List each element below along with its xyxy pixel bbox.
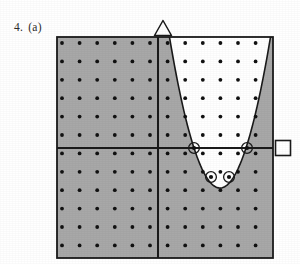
lattice-dot (60, 244, 64, 248)
lattice-dot (78, 78, 82, 82)
lattice-dot (131, 133, 135, 137)
lattice-dot (60, 170, 64, 174)
lattice-dot (183, 152, 187, 156)
lattice-dot (166, 96, 170, 100)
lattice-dot (254, 188, 258, 192)
lattice-dot (148, 41, 152, 45)
lattice-dot (219, 244, 223, 248)
lattice-dot (236, 41, 240, 45)
lattice-dot (219, 225, 223, 229)
lattice-dot (183, 41, 187, 45)
lattice-dot (254, 225, 258, 229)
lattice-dot (78, 41, 82, 45)
lattice-dot (60, 41, 64, 45)
figure-container: 4.(a) (0, 0, 300, 264)
lattice-dot (201, 170, 205, 174)
lattice-dot (131, 188, 135, 192)
lattice-dot (95, 96, 99, 100)
lattice-dot (95, 244, 99, 248)
lattice-dot (148, 170, 152, 174)
lattice-dot (219, 41, 223, 45)
lattice-dot (148, 96, 152, 100)
lattice-dot (148, 60, 152, 64)
lattice-dot (95, 188, 99, 192)
lattice-dot (60, 115, 64, 119)
lattice-dot (148, 133, 152, 137)
lattice-dot (236, 78, 240, 82)
plot-svg (0, 0, 300, 264)
lattice-dot (60, 152, 64, 156)
lattice-dot (201, 152, 205, 156)
lattice-dot (60, 96, 64, 100)
lattice-dot (166, 152, 170, 156)
lattice-dot (148, 152, 152, 156)
lattice-dot (236, 244, 240, 248)
lattice-dot (219, 152, 223, 156)
lattice-dot (113, 244, 117, 248)
lattice-dot (113, 188, 117, 192)
lattice-dot (95, 78, 99, 82)
lattice-dot (148, 244, 152, 248)
lattice-dot (201, 41, 205, 45)
marked-point (245, 146, 249, 150)
lattice-dot (60, 78, 64, 82)
lattice-dot (113, 207, 117, 211)
lattice-dot (236, 152, 240, 156)
lattice-dot (131, 96, 135, 100)
lattice-dot (166, 170, 170, 174)
lattice-dot (131, 244, 135, 248)
lattice-dot (95, 41, 99, 45)
lattice-dot (254, 133, 258, 137)
lattice-dot (131, 78, 135, 82)
lattice-dot (219, 207, 223, 211)
lattice-dot (166, 41, 170, 45)
lattice-dot (113, 170, 117, 174)
lattice-dot (113, 152, 117, 156)
lattice-dot (113, 133, 117, 137)
lattice-dot (236, 170, 240, 174)
lattice-dot (166, 60, 170, 64)
lattice-dot (254, 115, 258, 119)
lattice-dot (60, 60, 64, 64)
marked-point (227, 175, 231, 179)
lattice-dot (60, 225, 64, 229)
lattice-dot (183, 225, 187, 229)
lattice-dot (113, 60, 117, 64)
lattice-dot (78, 170, 82, 174)
lattice-dot (166, 207, 170, 211)
lattice-dot (95, 207, 99, 211)
lattice-dot (201, 244, 205, 248)
lattice-dot (95, 60, 99, 64)
lattice-dot (131, 225, 135, 229)
lattice-dot (113, 225, 117, 229)
lattice-dot (131, 41, 135, 45)
lattice-dot (166, 188, 170, 192)
lattice-dot (148, 207, 152, 211)
lattice-dot (201, 188, 205, 192)
lattice-dot (254, 244, 258, 248)
lattice-dot (166, 244, 170, 248)
lattice-dot (113, 115, 117, 119)
lattice-dot (219, 170, 223, 174)
lattice-dot (166, 115, 170, 119)
lattice-dot (201, 225, 205, 229)
lattice-dot (183, 133, 187, 137)
lattice-dot (166, 78, 170, 82)
lattice-dot (254, 152, 258, 156)
lattice-dot (219, 96, 223, 100)
lattice-dot (113, 41, 117, 45)
lattice-dot (201, 133, 205, 137)
lattice-dot (95, 152, 99, 156)
lattice-dot (78, 188, 82, 192)
lattice-dot (148, 115, 152, 119)
lattice-dot (201, 78, 205, 82)
lattice-dot (78, 133, 82, 137)
lattice-dot (166, 133, 170, 137)
lattice-dot (95, 170, 99, 174)
lattice-dot (236, 225, 240, 229)
lattice-dot (60, 133, 64, 137)
lattice-dot (236, 115, 240, 119)
triangle-marker-icon (155, 21, 172, 36)
lattice-dot (201, 207, 205, 211)
lattice-dot (131, 207, 135, 211)
